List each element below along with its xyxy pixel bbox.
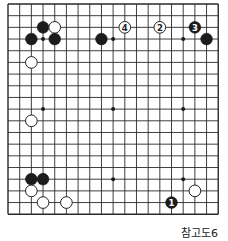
diagram-caption: 참고도6 [181, 224, 218, 240]
black-stone [37, 22, 49, 34]
black-stone-3: 3 [189, 22, 201, 34]
move-number: 3 [192, 23, 198, 33]
black-stone-1: 1 [166, 197, 178, 209]
star-point [111, 37, 115, 41]
move-number: 1 [169, 198, 175, 208]
white-stone [26, 57, 38, 69]
white-stone [61, 197, 73, 209]
star-point [41, 37, 45, 41]
white-stone [26, 185, 38, 197]
black-stone [37, 173, 49, 185]
black-stone [96, 33, 108, 45]
go-board: 4231 [0, 0, 228, 222]
move-number: 2 [157, 23, 163, 33]
star-point [111, 107, 115, 111]
white-stone-4: 4 [119, 22, 131, 34]
white-stone [189, 185, 201, 197]
black-stone [26, 173, 38, 185]
move-number: 4 [122, 23, 128, 33]
white-stone-2: 2 [154, 22, 166, 34]
star-point [41, 107, 45, 111]
white-stone [37, 197, 49, 209]
white-stone [49, 22, 61, 34]
star-point [181, 107, 185, 111]
star-point [111, 177, 115, 181]
black-stone [26, 33, 38, 45]
white-stone [26, 115, 38, 127]
star-point [181, 37, 185, 41]
black-stone [201, 33, 213, 45]
star-point [181, 177, 185, 181]
black-stone [49, 33, 61, 45]
